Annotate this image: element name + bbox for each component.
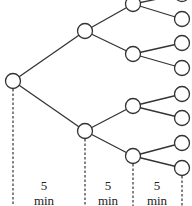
cell-node-circle — [126, 47, 141, 62]
cell-node-circle — [126, 0, 141, 12]
cell-node-circle — [175, 161, 190, 176]
cell-node-circle — [175, 12, 190, 27]
cell-node-circle — [78, 124, 93, 139]
tree-edges — [13, 0, 182, 168]
cell-node-circle — [78, 24, 93, 39]
cell-node-circle — [126, 149, 141, 164]
interval-label-2-unit: min — [88, 194, 128, 206]
cell-division-tree-diagram — [0, 0, 192, 206]
cell-node-circle — [6, 74, 21, 89]
cell-node-circle — [175, 61, 190, 76]
interval-label-3-unit: min — [137, 194, 177, 206]
interval-label-2-value: 5 — [88, 179, 128, 193]
tree-edge — [13, 31, 85, 81]
cell-node-circle — [175, 111, 190, 126]
interval-label-1-unit: min — [24, 194, 64, 206]
cell-node-circle — [175, 36, 190, 51]
cell-node-circle — [175, 87, 190, 102]
interval-label-1-value: 5 — [24, 179, 64, 193]
cell-node-circle — [126, 99, 141, 114]
interval-label-3-value: 5 — [137, 179, 177, 193]
tree-nodes — [6, 0, 190, 176]
tree-edge — [13, 81, 85, 131]
cell-node-circle — [175, 0, 190, 2]
tree-edge — [85, 4, 133, 31]
cell-node-circle — [175, 136, 190, 151]
